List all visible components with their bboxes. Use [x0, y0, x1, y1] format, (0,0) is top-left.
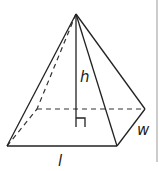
left-lateral-edge [7, 14, 76, 146]
hidden-left-edge [7, 109, 37, 146]
hidden-apex-edge [37, 14, 76, 109]
pyramid-diagram: h l w [0, 0, 159, 171]
length-label: l [58, 152, 63, 170]
right-angle-mark [76, 118, 85, 127]
right-lateral-edge [76, 14, 145, 109]
width-label: w [137, 121, 150, 139]
height-label: h [80, 68, 90, 86]
visible-edges [7, 14, 145, 146]
